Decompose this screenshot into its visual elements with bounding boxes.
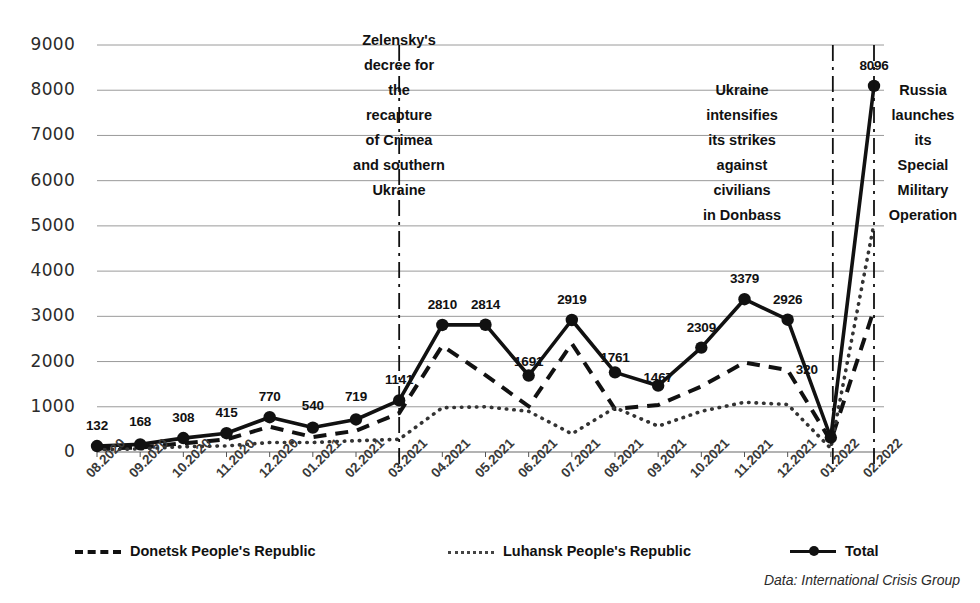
annotation-line: of Crimea [336, 128, 462, 153]
annotation-ukraine-intensifies: Ukraineintensifiesits strikesagainstcivi… [676, 78, 808, 228]
chart-container: 0100020003000400050006000700080009000 08… [0, 0, 980, 603]
legend-item-donetsk[interactable]: Donetsk People's Republic [75, 543, 316, 559]
annotation-line: the [336, 78, 462, 103]
data-point-marker[interactable] [825, 431, 837, 443]
y-axis-tick-label: 9000 [15, 34, 75, 54]
annotation-line: launches [868, 103, 978, 128]
data-point-marker[interactable] [609, 366, 621, 378]
annotation-line: in Donbass [676, 203, 808, 228]
annotation-line: its [868, 128, 978, 153]
data-point-marker[interactable] [220, 427, 232, 439]
annotation-line: civilians [676, 178, 808, 203]
data-point-marker[interactable] [436, 319, 448, 331]
annotation-line: Zelensky's [336, 28, 462, 53]
data-point-marker[interactable] [350, 413, 362, 425]
data-point-marker[interactable] [738, 293, 750, 305]
data-value-label: 1761 [600, 350, 629, 365]
annotation-line: Ukraine [336, 178, 462, 203]
data-value-label: 132 [86, 418, 108, 433]
dashed-line-key-icon [75, 544, 121, 558]
annotation-line: recapture [336, 103, 462, 128]
data-value-label: 3379 [730, 271, 759, 286]
data-point-marker[interactable] [479, 319, 491, 331]
dotted-line-key-icon [448, 544, 494, 558]
annotation-line: intensifies [676, 103, 808, 128]
data-point-marker[interactable] [307, 421, 319, 433]
legend-label-luhansk: Luhansk People's Republic [503, 543, 691, 559]
y-axis-tick-label: 6000 [15, 170, 75, 190]
data-value-label: 770 [259, 389, 281, 404]
y-axis-tick-label: 2000 [15, 351, 75, 371]
data-point-marker[interactable] [263, 411, 275, 423]
annotation-line: against [676, 153, 808, 178]
data-value-label: 168 [129, 414, 151, 429]
data-point-marker[interactable] [522, 369, 534, 381]
data-value-label: 1691 [514, 354, 543, 369]
data-value-label: 1467 [644, 370, 673, 385]
data-point-marker[interactable] [566, 314, 578, 326]
legend-label-donetsk: Donetsk People's Republic [130, 543, 316, 559]
data-value-label: 1141 [385, 372, 414, 387]
annotation-line: Operation [868, 203, 978, 228]
data-value-label: 308 [172, 410, 194, 425]
annotation-line: Ukraine [676, 78, 808, 103]
annotation-line: and southern [336, 153, 462, 178]
annotation-zelensky-decree: Zelensky'sdecree fortherecaptureof Crime… [336, 28, 462, 203]
annotation-line: Special [868, 153, 978, 178]
annotation-line: Russia [868, 78, 978, 103]
data-value-label: 2814 [471, 297, 500, 312]
data-point-marker[interactable] [695, 341, 707, 353]
annotation-line: its strikes [676, 128, 808, 153]
y-axis-tick-label: 1000 [15, 396, 75, 416]
annotation-line: decree for [336, 53, 462, 78]
annotation-russia-operation: RussialaunchesitsSpecialMilitaryOperatio… [868, 78, 978, 228]
data-value-label: 540 [302, 398, 324, 413]
data-value-label: 719 [345, 389, 367, 404]
data-value-label: 2926 [773, 292, 802, 307]
y-axis-tick-label: 7000 [15, 124, 75, 144]
series-line-luhansk [97, 224, 874, 450]
chart-legend: Donetsk People's Republic Luhansk People… [0, 543, 980, 569]
y-axis-tick-label: 0 [15, 441, 75, 461]
data-point-marker[interactable] [134, 438, 146, 450]
data-value-label: 2919 [557, 292, 586, 307]
data-value-label: 2810 [428, 297, 457, 312]
legend-item-luhansk[interactable]: Luhansk People's Republic [448, 543, 691, 559]
legend-item-total[interactable]: Total [790, 543, 879, 559]
y-axis-tick-label: 4000 [15, 260, 75, 280]
data-value-label: 8096 [859, 58, 888, 73]
legend-label-total: Total [845, 543, 879, 559]
data-value-label: 415 [216, 405, 238, 420]
data-source-note: Data: International Crisis Group [560, 572, 960, 588]
solid-line-marker-key-icon [790, 544, 836, 558]
data-point-marker[interactable] [781, 313, 793, 325]
y-axis-tick-label: 8000 [15, 79, 75, 99]
y-axis-tick-label: 5000 [15, 215, 75, 235]
data-point-marker[interactable] [177, 432, 189, 444]
data-value-label: 2309 [687, 320, 716, 335]
y-axis-tick-label: 3000 [15, 305, 75, 325]
data-value-label: 320 [796, 362, 818, 377]
annotation-line: Military [868, 178, 978, 203]
